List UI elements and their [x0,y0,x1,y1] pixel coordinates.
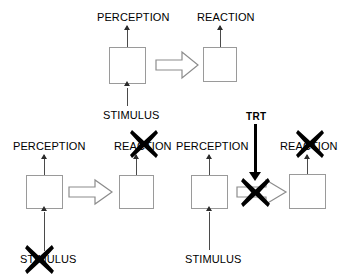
bl-perception-out-arrowhead [41,154,47,159]
top-reaction-label: REACTION [197,11,255,23]
top-stimulus-in-line [127,88,128,106]
bl-perception-box [26,175,63,209]
top-stimulus-label: STIMULUS [103,109,159,121]
br-reaction-box [289,174,326,209]
top-perception-box [109,47,146,84]
bl-reaction-box [119,175,154,209]
br-trt-arrow-shaft [254,124,257,173]
br-reaction-x-icon [294,128,326,160]
top-reaction-box [203,47,237,82]
br-perception-box [191,175,228,209]
top-stimulus-in-arrowhead [124,81,130,86]
bl-stimulus-in-arrowhead [41,206,47,211]
top-transfer-arrow-icon [155,50,200,80]
bl-perception-label: PERCEPTION [13,140,86,152]
bl-reaction-x-icon [128,128,160,160]
br-stimulus-in-line [209,212,210,250]
br-trt-label: TRT [246,111,266,123]
br-stimulus-label: STIMULUS [185,253,241,265]
bl-stimulus-x-icon [23,243,56,276]
bl-transfer-arrow-icon [68,178,114,206]
top-perception-label: PERCEPTION [97,11,170,23]
top-perception-out-arrowhead [124,25,130,30]
br-perception-out-arrowhead [206,154,212,159]
br-stimulus-in-arrowhead [206,206,212,211]
br-transfer-x-icon [239,176,272,209]
br-perception-label: PERCEPTION [176,140,249,152]
top-reaction-out-arrowhead [217,25,223,30]
figure-canvas: PERCEPTION REACTION STIMULUS PERCEPTION … [0,0,347,279]
